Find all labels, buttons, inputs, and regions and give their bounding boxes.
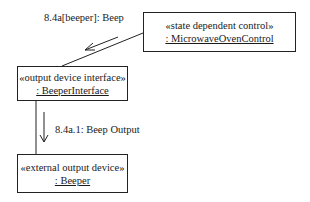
message-arrow-beep: [85, 37, 118, 50]
message-label-beep: 8.4a[beeper]: Beep: [44, 12, 124, 23]
object-microwave-oven-control: «state dependent control» : MicrowaveOve…: [143, 12, 296, 52]
object-name: : MicrowaveOvenControl: [165, 32, 273, 45]
object-beeper: «external output device» : Beeper: [17, 154, 128, 193]
object-name: : BeeperInterface: [36, 84, 109, 97]
object-name: : Beeper: [55, 174, 90, 187]
message-label-beep-output: 8.4a.1: Beep Output: [55, 124, 140, 135]
stereotype-label: «state dependent control»: [166, 19, 274, 32]
object-beeper-interface: «output device interface» : BeeperInterf…: [17, 66, 128, 101]
link-control-interface: [62, 33, 143, 66]
stereotype-label: «output device interface»: [19, 71, 126, 84]
stereotype-label: «external output device»: [21, 161, 125, 174]
